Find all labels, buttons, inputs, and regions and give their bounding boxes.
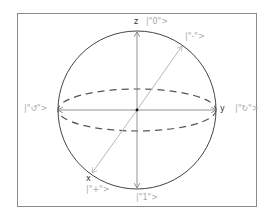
x-axis-line-neg bbox=[92, 110, 137, 173]
z-axis-label: z bbox=[134, 17, 138, 27]
x-axis-line bbox=[137, 46, 182, 110]
x-axis-label: x bbox=[86, 174, 91, 184]
y-axis-label: y bbox=[220, 104, 225, 114]
state-label-upper-right: |"-"> bbox=[185, 32, 205, 42]
state-label-bottom: |"1"> bbox=[136, 193, 158, 203]
state-label-top: |"0"> bbox=[146, 17, 168, 27]
state-label-right: |"↻"> bbox=[235, 104, 258, 114]
state-label-left: |"↺"> bbox=[24, 104, 47, 114]
origin-point bbox=[136, 109, 139, 112]
state-label-lower-left: |"+"> bbox=[86, 185, 109, 195]
